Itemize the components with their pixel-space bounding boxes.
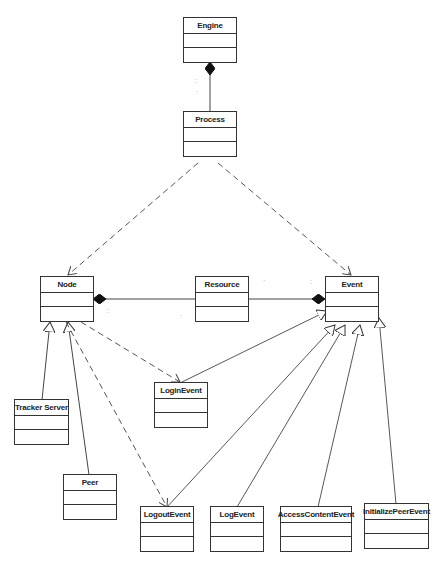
class-name: InitializePeerEvent bbox=[365, 504, 428, 520]
operations-compartment bbox=[326, 307, 378, 322]
scan-artifact: · bbox=[196, 88, 198, 95]
operations-compartment bbox=[41, 307, 93, 322]
attributes-compartment bbox=[196, 293, 248, 308]
attributes-compartment bbox=[184, 128, 236, 143]
dependency-process-event bbox=[218, 163, 351, 275]
class-peer[interactable]: Peer bbox=[63, 474, 117, 520]
dependency-process-node bbox=[68, 163, 198, 275]
class-node[interactable]: Node bbox=[40, 276, 94, 322]
scan-artifact: · bbox=[180, 312, 182, 319]
dependency-node-loginevent bbox=[81, 322, 180, 382]
attributes-compartment bbox=[15, 416, 68, 431]
operations-compartment bbox=[196, 307, 248, 322]
scan-artifact: : bbox=[310, 278, 312, 285]
operations-compartment bbox=[365, 534, 428, 549]
class-process[interactable]: Process bbox=[183, 111, 237, 157]
operations-compartment bbox=[211, 537, 263, 552]
class-name: LogEvent bbox=[211, 507, 263, 523]
scan-artifact: : bbox=[195, 77, 197, 84]
generalization-initializepeerevent-event bbox=[379, 318, 396, 504]
class-log-event[interactable]: LogEvent bbox=[210, 506, 264, 552]
generalization-peer-node bbox=[68, 322, 89, 475]
class-login-event[interactable]: LoginEvent bbox=[154, 382, 208, 428]
scan-artifact: · bbox=[263, 277, 265, 284]
class-name: Engine bbox=[184, 18, 236, 34]
class-tracker-server[interactable]: Tracker Server bbox=[14, 399, 69, 445]
operations-compartment bbox=[155, 413, 207, 428]
attributes-compartment bbox=[326, 293, 378, 308]
scan-artifact: : bbox=[107, 307, 109, 314]
class-initialize-peer-event[interactable]: InitializePeerEvent bbox=[364, 503, 429, 549]
attributes-compartment bbox=[141, 523, 193, 538]
class-name: LogoutEvent bbox=[141, 507, 193, 523]
class-name: Event bbox=[326, 277, 378, 293]
operations-compartment bbox=[141, 537, 193, 552]
operations-compartment bbox=[184, 48, 236, 63]
class-resource[interactable]: Resource bbox=[195, 276, 249, 322]
class-name: Resource bbox=[196, 277, 248, 293]
class-event[interactable]: Event bbox=[325, 276, 379, 322]
attributes-compartment bbox=[64, 491, 116, 506]
class-name: LoginEvent bbox=[155, 383, 207, 399]
operations-compartment bbox=[64, 505, 116, 520]
class-logout-event[interactable]: LogoutEvent bbox=[140, 506, 194, 552]
attributes-compartment bbox=[365, 520, 428, 535]
attributes-compartment bbox=[281, 523, 351, 538]
generalization-logevent-event bbox=[237, 325, 345, 507]
attributes-compartment bbox=[211, 523, 263, 538]
class-name: Node bbox=[41, 277, 93, 293]
attributes-compartment bbox=[41, 293, 93, 308]
generalization-accesscontentevent-event bbox=[318, 325, 360, 507]
operations-compartment bbox=[184, 142, 236, 157]
operations-compartment bbox=[15, 430, 68, 445]
attributes-compartment bbox=[184, 34, 236, 49]
class-name: Process bbox=[184, 112, 236, 128]
class-access-content-event[interactable]: AccessContentEvent bbox=[280, 506, 352, 552]
class-name: Peer bbox=[64, 475, 116, 491]
generalization-trackerserver-node bbox=[42, 322, 50, 400]
class-engine[interactable]: Engine bbox=[183, 17, 237, 63]
uml-class-diagram: : · · : · : Engine Process Node Resource… bbox=[0, 0, 444, 568]
class-name: Tracker Server bbox=[15, 400, 68, 416]
attributes-compartment bbox=[155, 399, 207, 414]
class-name: AccessContentEvent bbox=[281, 507, 351, 523]
operations-compartment bbox=[281, 537, 351, 552]
